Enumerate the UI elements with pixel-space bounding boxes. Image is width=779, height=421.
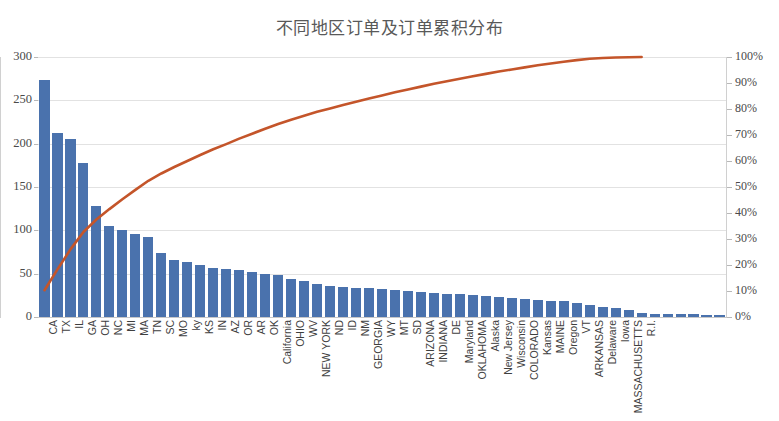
x-tick-label: MAINE xyxy=(555,320,566,353)
y-tick-mark-right xyxy=(727,135,732,136)
y-tick-label-left: 300 xyxy=(0,49,32,64)
y-tick-mark-right xyxy=(727,213,732,214)
x-tick-label: IN xyxy=(217,320,228,331)
y-tick-label-right: 20% xyxy=(735,257,779,272)
y-tick-mark-right xyxy=(727,83,732,84)
x-tick-label: MT xyxy=(399,320,410,335)
x-tick-label: WV xyxy=(308,320,319,337)
x-tick-label: SC xyxy=(165,320,176,335)
x-tick-label: MO xyxy=(178,320,189,337)
y-tick-label-right: 100% xyxy=(735,49,779,64)
x-axis-labels: CATXILGAOHNCMIMATNSCMOkyKSINAZORAROKCali… xyxy=(38,320,726,420)
x-tick-label: OK xyxy=(269,320,280,335)
x-tick-label: OHIO xyxy=(295,320,306,347)
y-tick-label-right: 90% xyxy=(735,75,779,90)
x-tick-label: KS xyxy=(204,320,215,334)
y-tick-mark-right xyxy=(727,187,732,188)
y-tick-label-right: 60% xyxy=(735,153,779,168)
cumulative-line-series xyxy=(38,57,726,317)
x-tick-label: ID xyxy=(347,320,358,331)
x-tick-label: ky xyxy=(191,320,202,331)
x-tick-label: Wisconsin xyxy=(516,320,527,368)
y-tick-mark-right xyxy=(727,291,732,292)
y-tick-mark-right xyxy=(727,57,732,58)
x-tick-label: DE xyxy=(451,320,462,335)
x-tick-label: AR xyxy=(256,320,267,335)
y-tick-label-left: 100 xyxy=(0,222,32,237)
x-tick-label: ND xyxy=(334,320,345,335)
x-tick-label: New Jersey xyxy=(503,320,514,375)
y-tick-mark-right xyxy=(727,161,732,162)
y-tick-label-right: 10% xyxy=(735,283,779,298)
x-tick-label: California xyxy=(282,320,293,364)
x-axis-line xyxy=(38,317,727,318)
x-tick-label: NM xyxy=(360,320,371,336)
y-tick-label-left: 0 xyxy=(0,309,32,324)
x-tick-label: Iowa xyxy=(620,320,631,342)
y-tick-mark-right xyxy=(727,317,732,318)
x-tick-label: MA xyxy=(139,320,150,336)
y-tick-label-right: 0% xyxy=(735,309,779,324)
x-tick-label: Delaware xyxy=(607,320,618,364)
x-tick-label: MI xyxy=(126,320,137,332)
x-tick-label: COLORADO xyxy=(529,320,540,380)
y-tick-label-right: 50% xyxy=(735,179,779,194)
y-tick-label-left: 250 xyxy=(0,92,32,107)
x-tick-label: GA xyxy=(87,320,98,335)
x-tick-label: NC xyxy=(113,320,124,335)
x-tick-label: IL xyxy=(74,320,85,329)
x-tick-label: CA xyxy=(48,320,59,335)
x-tick-label: GEORGIA xyxy=(373,320,384,369)
x-tick-label: AZ xyxy=(230,320,241,333)
x-tick-label: Alaska xyxy=(490,320,501,352)
x-tick-label: INDIANA xyxy=(438,320,449,363)
y-tick-label-right: 80% xyxy=(735,101,779,116)
y-tick-label-right: 30% xyxy=(735,231,779,246)
y-tick-mark-right xyxy=(727,239,732,240)
chart-title: 不同地区订单及订单累积分布 xyxy=(0,14,779,39)
plot-area xyxy=(38,57,726,317)
y-tick-label-left: 50 xyxy=(0,266,32,281)
y-tick-label-right: 40% xyxy=(735,205,779,220)
y-tick-mark-left xyxy=(34,317,38,318)
x-tick-label: OH xyxy=(100,320,111,336)
x-tick-label: Maryland xyxy=(464,320,475,363)
x-tick-label: SD xyxy=(412,320,423,335)
x-tick-label: TX xyxy=(61,320,72,333)
x-tick-label: R.I. xyxy=(646,320,657,336)
x-tick-label: Oregon xyxy=(568,320,579,355)
y-tick-mark-right xyxy=(727,109,732,110)
x-tick-label: TN xyxy=(152,320,163,334)
x-tick-label: WY xyxy=(386,320,397,337)
x-tick-label: OR xyxy=(243,320,254,336)
y-tick-mark-right xyxy=(727,265,732,266)
pareto-chart: 不同地区订单及订单累积分布 050100150200250300 0%10%20… xyxy=(0,0,779,421)
y-tick-label-left: 150 xyxy=(0,179,32,194)
x-tick-label: OKLAHOMA xyxy=(477,320,488,380)
y-tick-label-right: 70% xyxy=(735,127,779,142)
x-tick-label: ARKANSAS xyxy=(594,320,605,377)
y-tick-label-left: 200 xyxy=(0,136,32,151)
x-tick-label: ARIZONA xyxy=(425,320,436,367)
x-tick-label: Kansas xyxy=(542,320,553,355)
x-tick-label: MASSACHUSETTS xyxy=(633,320,644,413)
x-tick-label: VT xyxy=(581,320,592,333)
x-tick-label: NEW YORK xyxy=(321,320,332,377)
